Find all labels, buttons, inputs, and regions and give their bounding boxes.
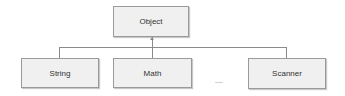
connector-horizontal	[59, 47, 286, 48]
string-label: String	[50, 69, 71, 78]
object-node: Object	[113, 6, 189, 37]
object-label: Object	[139, 17, 162, 26]
string-node: String	[21, 58, 99, 88]
connector-scanner	[286, 47, 287, 58]
scanner-node: Scanner	[248, 58, 326, 89]
math-label: Math	[144, 69, 162, 78]
scanner-label: Scanner	[272, 69, 302, 78]
arrowhead-icon	[150, 37, 154, 40]
ellipsis: ....	[215, 77, 223, 84]
math-node: Math	[113, 58, 192, 88]
connector-string	[59, 47, 60, 58]
